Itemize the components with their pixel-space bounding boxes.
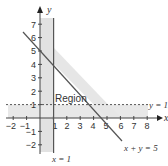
y-axis-arrow-icon [37, 6, 43, 13]
svg-text:3: 3 [31, 73, 36, 83]
svg-text:6: 6 [118, 121, 123, 131]
svg-text:−1: −1 [26, 127, 36, 137]
y-equals-1-label: y = 1 [148, 100, 168, 110]
svg-text:−2: −2 [26, 140, 36, 150]
y-tick-labels: 7 6 5 4 3 2 1 −1 −2 [26, 20, 36, 151]
svg-text:8: 8 [144, 121, 149, 131]
vertical-band-shading [40, 18, 54, 152]
svg-text:2: 2 [64, 121, 69, 131]
svg-text:7: 7 [131, 121, 136, 131]
svg-text:4: 4 [31, 60, 36, 70]
x-plus-y-equals-5-label: x + y = 5 [123, 143, 158, 153]
svg-text:−2: −2 [6, 121, 16, 131]
x-axis-label: x [163, 112, 168, 123]
inequality-graph: x y −2 −1 1 2 3 4 5 6 7 8 7 [0, 0, 168, 166]
svg-text:5: 5 [31, 46, 36, 56]
region-label: Region [55, 93, 87, 104]
svg-text:7: 7 [31, 20, 36, 30]
horizontal-band-shading [8, 105, 148, 118]
y-axis-label: y [46, 4, 52, 15]
svg-text:4: 4 [90, 121, 95, 131]
svg-text:2: 2 [31, 87, 36, 97]
x-axis-arrow-icon [157, 115, 163, 121]
svg-text:3: 3 [77, 121, 82, 131]
line-x-plus-y-equals-5 [23, 32, 122, 141]
x-equals-1-label: x = 1 [51, 154, 71, 164]
